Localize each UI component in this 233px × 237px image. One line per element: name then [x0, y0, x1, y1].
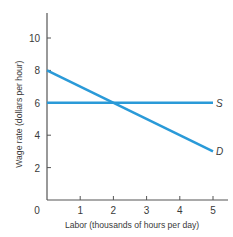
labor-market-chart: 246810012345 SD Labor (thousands of hour…	[0, 0, 233, 237]
x-tick-label: 5	[210, 205, 216, 216]
x-tick-label: 3	[144, 205, 150, 216]
x-tick-label: 1	[77, 205, 83, 216]
x-axis-title: Labor (thousands of hours per day)	[65, 220, 199, 230]
axes: 246810012345	[29, 13, 228, 216]
axis-labels: Labor (thousands of hours per day)Wage r…	[14, 60, 199, 230]
curve-label-s: S	[216, 98, 223, 109]
x-tick-label: 4	[177, 205, 183, 216]
y-tick-label: 2	[34, 163, 40, 174]
chart-svg: 246810012345 SD Labor (thousands of hour…	[0, 0, 233, 237]
x-tick-label: 2	[111, 205, 117, 216]
y-tick-label: 4	[34, 130, 40, 141]
origin-label: 0	[34, 205, 40, 216]
y-tick-label: 8	[34, 65, 40, 76]
series-lines: SD	[47, 70, 223, 157]
curve-d	[47, 70, 213, 151]
curve-label-d: D	[216, 146, 223, 157]
y-tick-label: 6	[34, 98, 40, 109]
y-axis-title: Wage rate (dollars per hour)	[14, 60, 24, 167]
y-tick-label: 10	[29, 33, 41, 44]
